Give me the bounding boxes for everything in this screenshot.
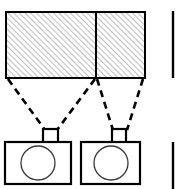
camera-left (5, 129, 71, 184)
view-rays-group (8, 79, 143, 130)
left-camera-ray-inner (57, 79, 95, 130)
right-camera-ray-outer (97, 79, 113, 130)
camera-left-body (5, 142, 71, 184)
left-camera-ray-outer (8, 79, 45, 130)
right-camera-ray-inner (127, 79, 143, 130)
figure-canvas (0, 0, 181, 189)
scene-plane-group (6, 12, 145, 78)
scene-plane-hatch-fill (6, 12, 145, 78)
camera-right-body (81, 142, 140, 184)
stereo-camera-coverage-diagram (0, 0, 181, 189)
camera-right-viewfinder (112, 129, 126, 143)
camera-left-viewfinder (43, 129, 58, 143)
camera-right (81, 129, 140, 184)
